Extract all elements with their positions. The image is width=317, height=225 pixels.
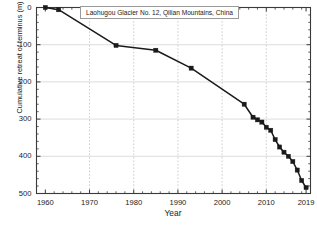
chart-title: Laohugou Glacier No. 12, Qilian Mountain… <box>80 6 239 19</box>
y-tick-label: 0 <box>6 3 32 12</box>
data-point-marker <box>260 120 264 124</box>
data-point-marker <box>189 66 193 70</box>
y-tick-label: 400 <box>6 151 32 160</box>
data-point-marker <box>43 5 47 9</box>
x-tick-label: 1970 <box>73 198 107 207</box>
x-tick-label: 2019 <box>289 198 317 207</box>
y-tick-label: 200 <box>6 77 32 86</box>
x-tick-label: 1960 <box>28 198 62 207</box>
x-tick-label: 1980 <box>117 198 151 207</box>
data-point-marker <box>300 178 304 182</box>
series-line <box>45 8 306 188</box>
x-tick-label: 1990 <box>161 198 195 207</box>
y-tick-label: 100 <box>6 40 32 49</box>
x-tick-label: 2000 <box>205 198 239 207</box>
data-point-marker <box>304 185 308 189</box>
data-point-marker <box>242 102 246 106</box>
data-point-marker <box>273 137 277 141</box>
y-axis-title: Cumulative retreat of terminus (m) <box>15 0 24 133</box>
data-point-marker <box>277 145 281 149</box>
data-point-marker <box>282 150 286 154</box>
data-point-marker <box>286 154 290 158</box>
data-point-marker <box>114 43 118 47</box>
data-point-marker <box>251 115 255 119</box>
x-tick-label: 2010 <box>249 198 283 207</box>
data-point-marker <box>269 128 273 132</box>
y-tick-label: 300 <box>6 114 32 123</box>
data-point-marker <box>255 118 259 122</box>
chart-plot-area <box>0 0 317 225</box>
data-point-marker <box>57 8 61 12</box>
x-axis-title: Year <box>36 208 310 218</box>
data-point-marker <box>154 48 158 52</box>
chart-figure: Cumulative retreat of terminus (m) Year … <box>0 0 317 225</box>
data-point-marker <box>295 168 299 172</box>
data-point-marker <box>264 125 268 129</box>
y-tick-label: 500 <box>6 189 32 198</box>
data-point-marker <box>291 159 295 163</box>
